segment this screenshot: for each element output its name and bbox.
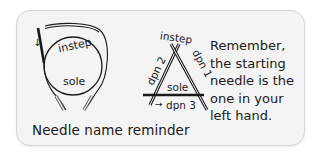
dpn2-label: dpn 2 <box>144 55 168 87</box>
down-arrow-icon: ↓ <box>33 37 41 48</box>
triangle-sole-label: sole <box>167 81 188 93</box>
reminder-line: left hand. <box>210 107 302 125</box>
reminder-line: the starting <box>210 55 302 73</box>
reminder-line: Remember, <box>210 37 302 55</box>
right-arrow-icon: → <box>155 99 163 109</box>
circular-sole-label: sole <box>63 75 86 88</box>
diagram-caption: Needle name reminder <box>32 122 190 138</box>
circular-needle-illustration <box>38 23 107 110</box>
reminder-text: Remember, the starting needle is the one… <box>210 37 302 125</box>
reminder-line: one in your <box>210 90 302 108</box>
reminder-line: needle is the <box>210 72 302 90</box>
dpn3-label: dpn 3 <box>166 99 196 111</box>
triangle-instep-label: instep <box>159 29 193 45</box>
